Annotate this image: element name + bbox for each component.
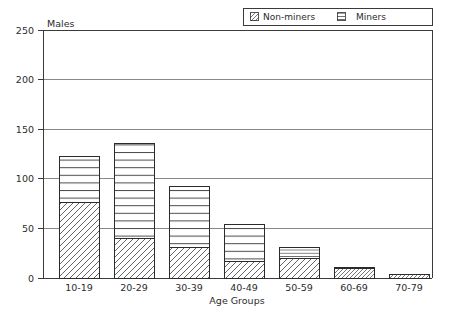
bar-group-40-49 — [224, 225, 264, 279]
lines-swatch-icon — [337, 13, 345, 21]
y-tick-label: 0 — [28, 273, 34, 284]
bar-segment-miners — [114, 143, 154, 238]
bar-segment-miners — [169, 187, 209, 247]
y-tick-label: 250 — [16, 25, 34, 36]
bar-segment-nonminers — [169, 247, 209, 278]
bar-segment-nonminers — [224, 261, 264, 278]
y-tick-label: 200 — [16, 74, 34, 85]
bar-segment-nonminers — [114, 238, 154, 278]
x-tick-label: 10-19 — [65, 282, 93, 293]
legend: Non-miners Miners — [243, 8, 432, 25]
y-tick-label: 100 — [16, 173, 34, 184]
y-tick-label: 50 — [22, 223, 34, 234]
bar-group-20-29 — [114, 143, 154, 278]
bar-group-60-69 — [334, 267, 374, 278]
x-tick-label: 30-39 — [175, 282, 203, 293]
bar-segment-nonminers — [59, 203, 99, 278]
hatch-swatch-icon — [250, 13, 258, 21]
bar-segment-nonminers — [279, 258, 319, 278]
bar-segment-miners — [224, 225, 264, 262]
bar-segment-miners — [59, 156, 99, 203]
bar-group-50-59 — [279, 247, 319, 278]
y-axis-title: Males — [47, 18, 75, 29]
legend-label-nonminers: Non-miners — [263, 12, 315, 22]
x-tick-label: 40-49 — [230, 282, 258, 293]
bar-group-30-39 — [169, 187, 209, 278]
y-tick-label: 150 — [16, 124, 34, 135]
x-tick-label: 70-79 — [395, 282, 423, 293]
bar-segment-miners — [279, 247, 319, 258]
chart-container: 0 50 100 150 200 250 Males — [0, 0, 449, 309]
legend-label-miners: Miners — [356, 12, 386, 22]
bar-segment-nonminers — [389, 274, 429, 278]
x-tick-label: 20-29 — [120, 282, 148, 293]
bar-group-10-19 — [59, 156, 99, 278]
x-tick-label: 60-69 — [340, 282, 368, 293]
bar-segment-nonminers — [334, 268, 374, 278]
x-tick-label: 50-59 — [285, 282, 313, 293]
bar-group-70-79 — [389, 274, 429, 278]
bar-chart: 0 50 100 150 200 250 Males — [0, 0, 449, 309]
x-axis-title: Age Groups — [209, 295, 264, 306]
bar-segment-miners — [334, 267, 374, 268]
